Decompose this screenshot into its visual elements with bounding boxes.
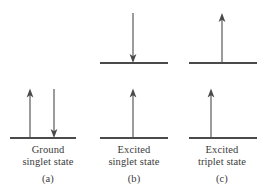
panel-a-title-line1: Ground xyxy=(2,144,94,156)
panel-c-title-line1: Excited xyxy=(177,144,267,156)
panel-a-group xyxy=(10,89,76,139)
panel-c-tag: (c) xyxy=(177,173,267,185)
panel-a-title-line2: singlet state xyxy=(2,156,94,168)
excited-singlet-upper-spin-down-arrow xyxy=(130,13,137,63)
panel-c-caption: Excited triplet state (c) xyxy=(177,144,267,185)
ground-spin-up-arrow xyxy=(27,89,34,139)
ground-spin-down-arrow xyxy=(51,89,58,138)
panel-c-group xyxy=(189,13,257,138)
panel-a-caption: Ground singlet state (a) xyxy=(2,144,94,185)
panel-b-caption: Excited singlet state (b) xyxy=(89,144,179,185)
figure-container: Ground singlet state (a) Excited singlet… xyxy=(0,0,267,196)
panel-b-tag: (b) xyxy=(89,173,179,185)
panel-b-title-line1: Excited xyxy=(89,144,179,156)
panel-b-title-line2: singlet state xyxy=(89,156,179,168)
excited-triplet-lower-spin-up-arrow xyxy=(208,89,215,139)
panel-b-group xyxy=(100,13,168,138)
excited-triplet-upper-spin-up-arrow xyxy=(219,13,226,63)
excited-singlet-lower-spin-up-arrow xyxy=(130,89,137,139)
panel-a-tag: (a) xyxy=(2,173,94,185)
panel-c-title-line2: triplet state xyxy=(177,156,267,168)
